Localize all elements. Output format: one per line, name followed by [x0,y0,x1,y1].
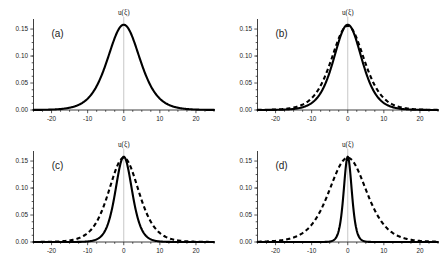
y-tick-label: 0.00 [16,106,29,113]
x-tick-label: 10 [380,247,388,254]
panel-letter: (d) [275,160,287,171]
chart-panel-c: -20-10010200.000.050.100.15u(ξ)(c) [0,132,224,264]
y-tick-label: 0.05 [240,211,253,218]
y-tick-label: 0.10 [240,184,253,191]
y-tick-label: 0.05 [240,79,253,86]
x-tick-label: 0 [346,115,350,122]
x-tick-label: -10 [307,115,317,122]
x-tick-label: -10 [83,115,93,122]
y-tick-label: 0.10 [16,184,29,191]
y-tick-label: 0.15 [240,25,253,32]
x-tick-label: -20 [271,115,281,122]
chart-panel-b: -20-10010200.000.050.100.15u(ξ)(b) [224,0,448,132]
y-tick-label: 0.05 [16,79,29,86]
x-tick-label: 10 [156,115,164,122]
chart-panel-a: -20-10010200.000.050.100.15u(ξ)(a) [0,0,224,132]
x-tick-label: 10 [380,115,388,122]
y-tick-label: 0.15 [16,25,29,32]
chart-panel-d: -20-10010200.000.050.100.15u(ξ)(d) [224,132,448,264]
y-axis-label: u(ξ) [118,141,130,149]
x-tick-label: -10 [307,247,317,254]
y-axis-label: u(ξ) [118,9,130,17]
y-axis-label: u(ξ) [342,9,354,17]
x-tick-label: 20 [416,247,424,254]
x-tick-label: 20 [192,247,200,254]
y-tick-label: 0.05 [16,211,29,218]
y-tick-label: 0.00 [240,106,253,113]
x-tick-label: -10 [83,247,93,254]
x-tick-label: 20 [416,115,424,122]
x-tick-label: 20 [192,115,200,122]
y-axis-label: u(ξ) [342,141,354,149]
x-tick-label: 0 [346,247,350,254]
y-tick-label: 0.10 [16,52,29,59]
y-tick-label: 0.15 [240,157,253,164]
x-tick-label: -20 [47,115,57,122]
x-tick-label: 0 [122,247,126,254]
y-tick-label: 0.10 [240,52,253,59]
x-tick-label: 10 [156,247,164,254]
panel-letter: (a) [51,28,63,39]
y-tick-label: 0.00 [240,238,253,245]
y-tick-label: 0.00 [16,238,29,245]
x-tick-label: -20 [271,247,281,254]
panel-letter: (b) [275,28,287,39]
panel-letter: (c) [52,160,64,171]
x-tick-label: 0 [122,115,126,122]
x-tick-label: -20 [47,247,57,254]
figure-panel-grid: -20-10010200.000.050.100.15u(ξ)(a)-20-10… [0,0,448,264]
y-tick-label: 0.15 [16,157,29,164]
